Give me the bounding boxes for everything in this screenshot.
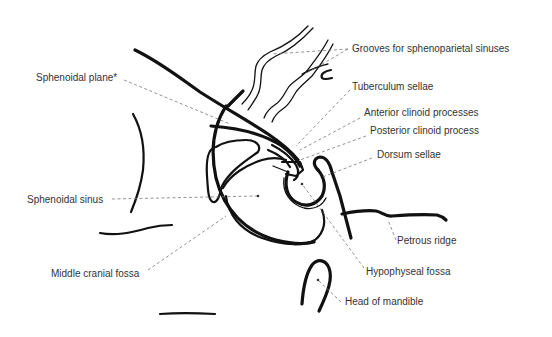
sella-turcica-diagram: Grooves for sphenoparietal sinuses Sphen… — [0, 0, 552, 337]
leader-sphenoidal-sinus — [112, 196, 258, 199]
head-of-mandible-outline — [302, 261, 330, 311]
label-sphenoidal-plane: Sphenoidal plane* — [36, 72, 117, 83]
groove-1b — [248, 28, 313, 110]
groove-1a — [242, 26, 308, 104]
sphenoidal-sinus-point — [257, 195, 260, 198]
labels: Grooves for sphenoparietal sinuses Sphen… — [27, 43, 509, 307]
label-tuberculum-sellae: Tuberculum sellae — [352, 81, 434, 92]
groove-2a — [264, 40, 328, 118]
label-dorsum-sellae: Dorsum sellae — [377, 149, 441, 160]
bottom-line — [160, 313, 215, 314]
leader-posterior-clinoid — [300, 136, 366, 160]
groove-2b — [272, 44, 333, 122]
label-anterior-clinoid: Anterior clinoid processes — [364, 107, 479, 118]
leader-hypophyseal — [302, 184, 364, 268]
left-arc — [131, 114, 144, 212]
label-grooves: Grooves for sphenoparietal sinuses — [352, 43, 509, 54]
label-posterior-clinoid: Posterior clinoid process — [370, 125, 479, 136]
label-hypophyseal-fossa: Hypophyseal fossa — [366, 266, 451, 277]
anterior-clinoid-process — [282, 162, 303, 176]
label-petrous-ridge: Petrous ridge — [397, 235, 457, 246]
leader-petrous — [388, 220, 396, 240]
leader-anterior-clinoid — [300, 118, 360, 150]
clinoid-cross — [273, 166, 288, 172]
petrous-ridge-line — [342, 211, 446, 220]
groove-hook — [322, 70, 332, 79]
label-middle-cranial-fossa: Middle cranial fossa — [51, 268, 140, 279]
leader-tuberculum — [296, 90, 350, 146]
label-sphenoidal-sinus: Sphenoidal sinus — [27, 194, 103, 205]
label-head-of-mandible: Head of mandible — [345, 296, 424, 307]
lower-left-line — [100, 225, 172, 234]
head-of-mandible-point — [317, 279, 320, 282]
leader-grooves-1 — [272, 49, 348, 54]
leader-middle-fossa — [148, 216, 226, 270]
hypophyseal-fossa-point — [301, 183, 304, 186]
anterior-clinoid-stub — [228, 91, 243, 106]
